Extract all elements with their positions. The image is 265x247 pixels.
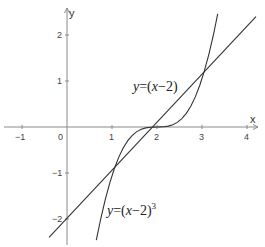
x-axis-label: x — [250, 113, 256, 125]
x-tick-label: 0 — [58, 132, 63, 142]
x-tick-label: 1 — [109, 132, 114, 142]
cubic-curve-label: y=(x−2)3 — [105, 201, 157, 219]
x-tick-label: 2 — [154, 132, 159, 142]
x-tick-label: −1 — [15, 132, 25, 142]
y-tick-label: 1 — [57, 76, 62, 86]
y-tick-label: 2 — [57, 30, 62, 40]
x-tick-label: 3 — [199, 132, 204, 142]
y-tick-label: −2 — [52, 214, 62, 224]
y-axis-label: y — [69, 7, 75, 19]
function-plot: x y −1 0 1 2 3 4 2 1 −1 −2 y=(x−2) y=(x−… — [0, 0, 265, 247]
x-tick-label: 4 — [244, 132, 249, 142]
y-tick-label: −1 — [52, 168, 62, 178]
linear-curve-label: y=(x−2) — [131, 79, 178, 95]
